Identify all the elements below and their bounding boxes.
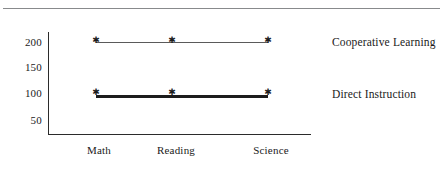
data-point-cooperative-learning-math [92, 36, 101, 45]
x-axis-tick-math: Math [87, 144, 111, 156]
legend-item-cooperative-learning: Cooperative Learning [332, 36, 436, 48]
x-axis-tick-reading: Reading [157, 144, 195, 156]
plot-area: 200 150 100 50 Math Reading Science [0, 0, 443, 174]
y-axis-tick-200: 200 [10, 37, 42, 48]
data-point-cooperative-learning-science [264, 36, 273, 45]
y-axis-tick-100: 100 [10, 88, 42, 99]
legend-item-direct-instruction: Direct Instruction [332, 88, 416, 100]
y-axis-line [48, 32, 49, 135]
y-axis-tick-50: 50 [10, 115, 42, 126]
series-line-direct-instruction [96, 95, 268, 98]
y-axis-tick-150: 150 [10, 62, 42, 73]
chart-figure: 200 150 100 50 Math Reading Science Coop… [0, 0, 443, 174]
series-line-cooperative-learning [96, 42, 268, 43]
data-point-direct-instruction-reading [168, 88, 177, 97]
x-axis-tick-science: Science [253, 144, 289, 156]
data-point-direct-instruction-science [264, 88, 273, 97]
data-point-cooperative-learning-reading [168, 36, 177, 45]
x-axis-line [48, 134, 311, 135]
data-point-direct-instruction-math [92, 88, 101, 97]
